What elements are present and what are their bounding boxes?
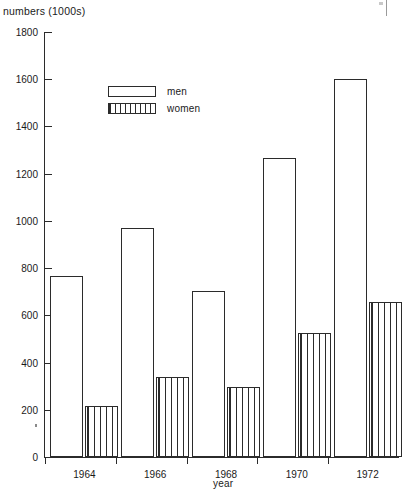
legend-label-women: women [167,103,200,114]
x-axis-line [44,457,399,458]
y-axis-tick-label: 800 [21,263,38,274]
x-axis-tick [116,458,117,464]
x-axis-tick-label: 1966 [144,469,166,480]
bar-men-1968 [192,291,225,457]
y-axis-tick-label: 1200 [16,168,38,179]
bar-men-1972 [334,79,367,457]
legend-swatch-men-icon [108,86,156,97]
y-axis-tick-label: 200 [21,404,38,415]
legend: men women [108,84,218,118]
bar-women-1964 [85,406,118,457]
x-axis-tick-label: 1964 [73,469,95,480]
legend-item-men: men [108,84,218,98]
y-axis-tick-label: 400 [21,357,38,368]
bars-layer [45,32,399,457]
y-axis-tick-label: 600 [21,310,38,321]
y-axis-tick-label: 0 [32,452,38,463]
y-axis-tick-label: 1000 [16,215,38,226]
bar-men-1966 [121,228,154,457]
x-axis-tick [328,458,329,464]
chart-page: numbers (1000s) 020040060080010001200140… [0,0,413,495]
y-axis-tick-label: 1400 [16,121,38,132]
x-axis-tick-label: 1970 [286,469,308,480]
bar-women-1968 [227,387,260,457]
y-axis-tick [45,457,52,458]
legend-swatch-women-icon [108,103,156,114]
bar-women-1970 [298,333,331,457]
x-axis-tick [187,458,188,464]
x-axis-tick-label: 1972 [356,469,378,480]
bar-women-1966 [156,377,189,457]
y-axis-tick-label: 1800 [16,27,38,38]
x-axis-tick [45,458,46,464]
y-axis-tick-labels: 020040060080010001200140016001800 [0,32,38,458]
y-axis-tick-label: 1600 [16,74,38,85]
bar-men-1964 [50,276,83,457]
scan-artifact-dot [379,2,383,5]
y-axis-title: numbers (1000s) [3,5,85,17]
x-axis-title: year [213,478,233,489]
x-axis-tick [257,458,258,464]
bar-women-1972 [369,302,402,457]
legend-label-men: men [167,86,187,97]
legend-item-women: women [108,101,218,115]
bar-men-1970 [263,158,296,457]
plot-area: 19641966196819701972 men women [44,32,399,457]
scan-artifact-line [386,0,387,16]
